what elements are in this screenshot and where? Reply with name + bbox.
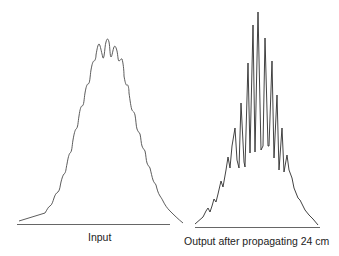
output-caption: Output after propagating 24 cm xyxy=(184,235,329,247)
output-curve xyxy=(195,12,318,225)
figure: Input Output after propagating 24 cm xyxy=(0,0,339,256)
input-curve xyxy=(19,39,183,223)
input-caption: Input xyxy=(88,231,111,243)
plots-svg xyxy=(0,0,339,256)
